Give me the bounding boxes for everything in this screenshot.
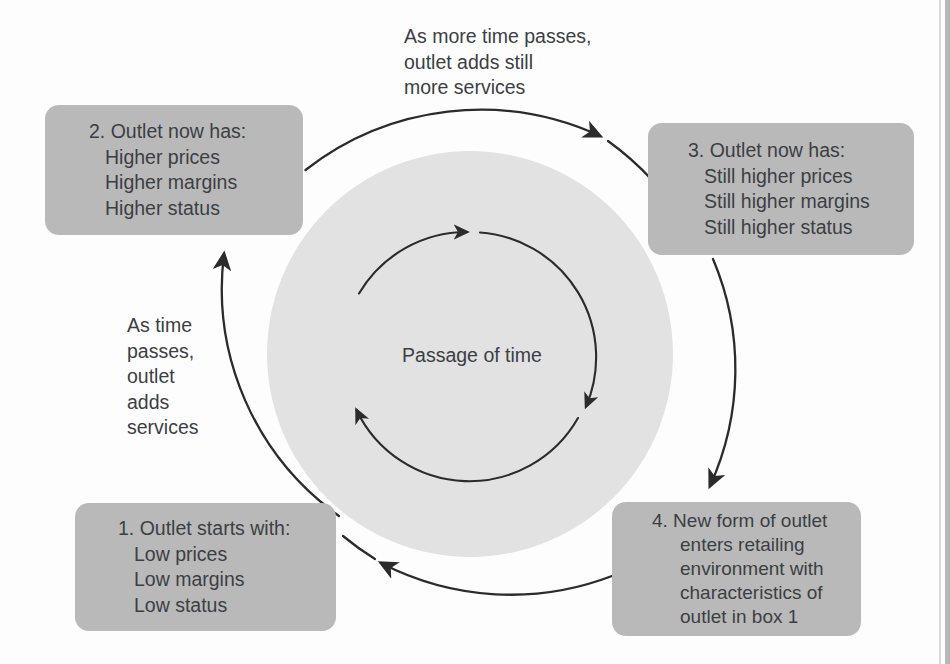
stage-box-4[interactable]: 4. New form of outlet enters retailing e… — [612, 502, 861, 636]
annotation-top-line-2: outlet adds still — [404, 50, 591, 76]
box-1-item-1: Low prices — [118, 542, 336, 568]
stage-box-2[interactable]: 2. Outlet now has: Higher prices Higher … — [45, 105, 303, 235]
box-4-item-2: environment with — [652, 557, 861, 581]
annotation-as-time-passes: As time passes, outlet adds services — [127, 313, 199, 441]
stage-box-1[interactable]: 1. Outlet starts with: Low prices Low ma… — [75, 503, 336, 631]
annotation-left-line-3: outlet — [127, 364, 199, 390]
box-4-heading: 4. New form of outlet — [652, 509, 861, 533]
box-4-item-4: outlet in box 1 — [652, 605, 861, 629]
outer-arrow-3-to-4 — [710, 259, 735, 486]
center-label-passage-of-time: Passage of time — [372, 344, 572, 367]
annotation-left-line-1: As time — [127, 313, 199, 339]
box-3-heading: 3. Outlet now has: — [688, 138, 914, 164]
box-2-item-1: Higher prices — [89, 145, 303, 171]
annotation-left-line-5: services — [127, 415, 199, 441]
box-3-item-1: Still higher prices — [688, 164, 914, 190]
annotation-top-line-3: more services — [404, 75, 591, 101]
box-4-item-3: characteristics of — [652, 581, 861, 605]
annotation-as-more-time-passes: As more time passes, outlet adds still m… — [404, 24, 591, 101]
box-2-heading: 2. Outlet now has: — [89, 119, 303, 145]
box-2-item-2: Higher margins — [89, 170, 303, 196]
box-1-item-2: Low margins — [118, 567, 336, 593]
stage-box-3[interactable]: 3. Outlet now has: Still higher prices S… — [648, 123, 914, 255]
box-1-heading: 1. Outlet starts with: — [118, 516, 336, 542]
annotation-top-line-1: As more time passes, — [404, 24, 591, 50]
annotation-left-line-2: passes, — [127, 339, 199, 365]
diagram-canvas: 2. Outlet now has: Higher prices Higher … — [0, 0, 950, 664]
box-4-item-1: enters retailing — [652, 533, 861, 557]
box-3-item-3: Still higher status — [688, 215, 914, 241]
annotation-left-line-4: adds — [127, 390, 199, 416]
page-edge-rule-inner — [939, 0, 941, 664]
box-1-item-3: Low status — [118, 593, 336, 619]
box-2-item-3: Higher status — [89, 196, 303, 222]
box-3-item-2: Still higher margins — [688, 189, 914, 215]
page-edge-rule — [945, 0, 950, 664]
